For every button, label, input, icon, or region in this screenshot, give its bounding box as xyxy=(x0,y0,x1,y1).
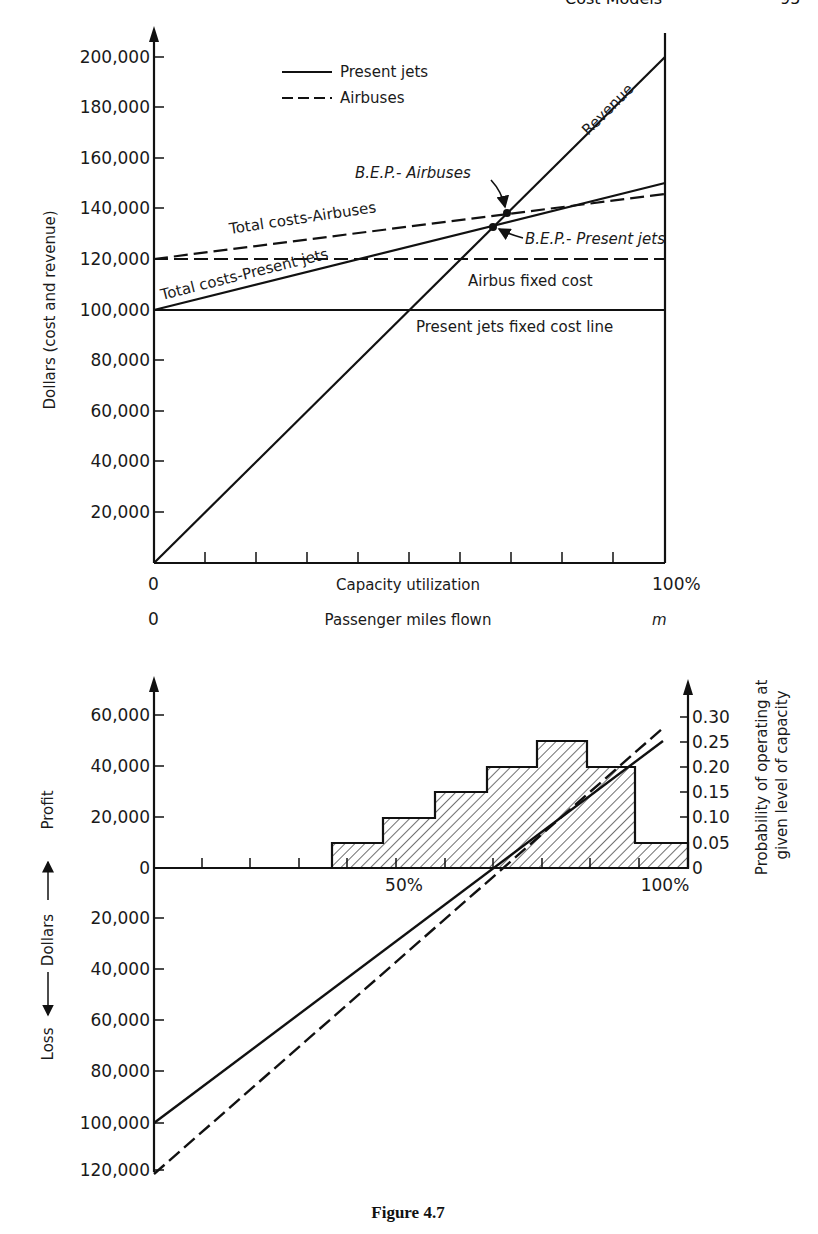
y-tick-label: 60,000 xyxy=(91,401,150,421)
label-profit: Profit xyxy=(39,790,57,829)
y-tick-label: 20,000 xyxy=(91,908,150,928)
bep-airbuses-arrow-icon xyxy=(491,180,505,207)
bottom-y-ticks xyxy=(154,715,164,1170)
top-y-axis-label: Dollars (cost and revenue) xyxy=(41,211,59,410)
right-tick-label: 0.10 xyxy=(692,807,730,827)
x-tick-50: 50% xyxy=(385,875,423,895)
y-tick-label: 120,000 xyxy=(80,249,150,269)
y-tick-label: 60,000 xyxy=(91,1010,150,1030)
bottom-y-axis-label: Profit Dollars Loss xyxy=(39,790,57,1060)
right-tick-label: 0 xyxy=(692,858,703,878)
arrow-up-icon xyxy=(149,676,159,692)
right-y-tick-labels: 0.30 0.25 0.20 0.15 0.10 0.05 0 xyxy=(692,707,730,878)
legend: Present jets Airbuses xyxy=(282,63,428,107)
label-dollars: Dollars xyxy=(39,914,57,966)
y-tick-label: 40,000 xyxy=(91,451,150,471)
right-y-axis-label-line1: Probability of operating at xyxy=(753,680,771,876)
label-loss: Loss xyxy=(39,1027,57,1060)
y-tick-label: 20,000 xyxy=(91,502,150,522)
y-tick-label: 120,000 xyxy=(80,1160,150,1180)
probability-histogram xyxy=(332,741,688,868)
arrow-up-icon xyxy=(149,26,159,42)
airbus-fixed-cost-label: Airbus fixed cost xyxy=(468,272,593,290)
top-x-axis-label-2: Passenger miles flown xyxy=(325,611,492,629)
bep-present-jets-point xyxy=(489,223,497,231)
y-tick-label: 60,000 xyxy=(91,705,150,725)
right-y-ticks xyxy=(680,717,688,843)
present-jets-fixed-cost-label: Present jets fixed cost line xyxy=(416,318,613,336)
y-tick-label: 20,000 xyxy=(91,807,150,827)
top-x-axis-label: Capacity utilization xyxy=(336,576,480,594)
right-y-axis-label-line2: given level of capacity xyxy=(773,690,791,859)
total-costs-present-jets-label: Total costs-Present jets xyxy=(158,245,331,304)
y-tick-label: 80,000 xyxy=(91,1061,150,1081)
total-costs-airbuses-label: Total costs-Airbuses xyxy=(227,198,378,238)
bottom-y-tick-labels: 60,000 40,000 20,000 0 20,000 40,000 60,… xyxy=(80,705,150,1180)
y-tick-label: 180,000 xyxy=(80,97,150,117)
figure-caption: Figure 4.7 xyxy=(371,1203,445,1222)
right-tick-label: 0.05 xyxy=(692,833,730,853)
y-tick-label: 160,000 xyxy=(80,148,150,168)
revenue-label: Revenue xyxy=(578,80,637,139)
top-y-tick-labels: 200,000 180,000 160,000 140,000 120,000 … xyxy=(80,47,150,522)
top-x-ticks xyxy=(205,552,613,563)
bep-present-jets-label: B.E.P.- Present jets xyxy=(525,230,665,248)
right-tick-label: 0.25 xyxy=(692,732,730,752)
bep-airbuses-point xyxy=(503,209,511,217)
legend-label-airbuses: Airbuses xyxy=(340,89,405,107)
y-tick-label: 140,000 xyxy=(80,198,150,218)
legend-label-present-jets: Present jets xyxy=(340,63,428,81)
bottom-chart: 60,000 40,000 20,000 0 20,000 40,000 60,… xyxy=(39,675,791,1180)
y-tick-label: 200,000 xyxy=(80,47,150,67)
x-tick-100: 100% xyxy=(641,875,690,895)
x-end-label: 100% xyxy=(652,574,701,594)
right-tick-label: 0.30 xyxy=(692,707,730,727)
present-jets-profit-line xyxy=(154,741,663,1123)
page-header: Cost Models 95 xyxy=(565,0,800,8)
y-tick-label: 0 xyxy=(139,858,150,878)
y-tick-label: 40,000 xyxy=(91,959,150,979)
x-start-label: 0 xyxy=(148,574,159,594)
top-chart: 200,000 180,000 160,000 140,000 120,000 … xyxy=(41,26,701,629)
right-tick-label: 0.20 xyxy=(692,757,730,777)
bep-airbuses-label: B.E.P.- Airbuses xyxy=(355,164,471,182)
y-tick-label: 100,000 xyxy=(80,1113,150,1133)
page-number: 95 xyxy=(780,0,800,8)
figure-canvas: Cost Models 95 200,000 180,000 160,000 xyxy=(0,0,818,1234)
bep-present-jets-arrow-icon xyxy=(499,229,523,238)
y-tick-label: 100,000 xyxy=(80,300,150,320)
running-title: Cost Models xyxy=(565,0,662,8)
y-tick-label: 40,000 xyxy=(91,756,150,776)
right-tick-label: 0.15 xyxy=(692,782,730,802)
y-tick-label: 80,000 xyxy=(91,350,150,370)
x2-start-label: 0 xyxy=(148,609,159,629)
arrow-up-icon xyxy=(683,679,693,695)
right-y-axis-label: Probability of operating at given level … xyxy=(753,675,791,875)
x2-end-label: m xyxy=(652,611,667,629)
